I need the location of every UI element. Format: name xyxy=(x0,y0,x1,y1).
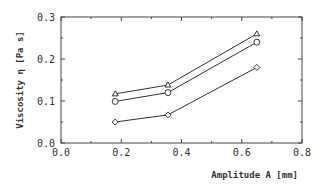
x-tick-label: 0.6 xyxy=(233,147,251,158)
y-tick-label: 0.3 xyxy=(37,12,55,23)
y-tick-label: 0.0 xyxy=(37,138,55,149)
viscosity-chart: 0.00.20.40.60.80.00.10.20.3 Viscosity η … xyxy=(0,0,318,187)
series-triangle xyxy=(112,31,260,96)
diamond-marker-icon xyxy=(112,119,118,125)
y-tick-label: 0.1 xyxy=(37,96,55,107)
series-diamond xyxy=(112,64,260,125)
diamond-marker-icon xyxy=(254,64,260,70)
circle-marker-icon xyxy=(254,39,260,45)
y-axis-title: Viscosity η [Pa s] xyxy=(15,31,25,129)
triangle-marker-icon xyxy=(165,82,171,87)
x-tick-label: 0.0 xyxy=(52,147,70,158)
axis-ticks: 0.00.20.40.60.80.00.10.20.3 xyxy=(37,12,311,159)
circle-marker-icon xyxy=(165,90,171,96)
x-tick-label: 0.8 xyxy=(293,147,311,158)
x-tick-label: 0.4 xyxy=(172,147,190,158)
data-series xyxy=(112,31,260,125)
plot-frame xyxy=(61,17,302,143)
circle-marker-icon xyxy=(112,98,118,104)
x-tick-label: 0.2 xyxy=(112,147,130,158)
triangle-marker-icon xyxy=(254,31,260,36)
x-axis-title: Amplitude A [mm] xyxy=(211,170,298,180)
y-tick-label: 0.2 xyxy=(37,54,55,65)
diamond-marker-icon xyxy=(165,112,171,118)
series-circle xyxy=(112,39,260,104)
